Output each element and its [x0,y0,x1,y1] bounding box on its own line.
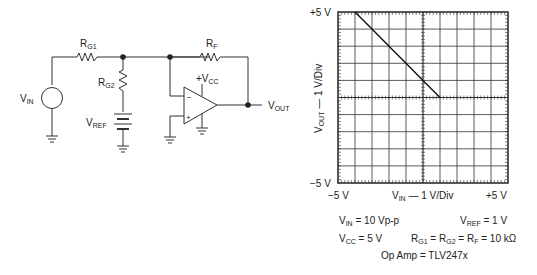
vcc-label: +VCC [196,73,219,85]
ground-icon [46,136,58,142]
vin-label: VIN [20,93,34,105]
inverting-input-sign: − [187,93,192,102]
y-min-label: −5 V [310,178,331,189]
rg2-label: RG2 [98,77,115,89]
rg1-resistor-icon [77,53,97,61]
vin-condition: VIN = 10 Vp-p [339,215,399,227]
opamp-condition: Op Amp = TLV247x [381,250,468,261]
junction-dots [120,54,251,108]
resistor-condition: RG1 = RG2 = RF = 10 kΩ [411,233,516,245]
rf-resistor-icon [200,53,220,61]
rf-label: RF [206,38,218,50]
ground-icon [196,128,208,134]
chart-frame [338,12,508,183]
vin-source-icon [42,88,63,109]
x-max-label: +5 V [486,190,507,201]
chart-grid [338,12,508,183]
y-axis-label: VOUT — 1 V/Div [313,64,325,133]
ground-icon [164,137,176,143]
vout-trace [355,12,440,98]
x-min-label: −5 V [328,190,349,201]
ground-icon [117,146,129,152]
rg1-label: RG1 [80,38,97,50]
circuit-schematic: RG1 RF RG2 VIN VREF +VCC VOUT − + [0,0,300,200]
rg2-resistor-icon [119,70,127,91]
vref-condition: VREF = 1 V [460,215,507,227]
vout-label: VOUT [268,100,290,112]
x-axis-label: VIN — 1 V/Div [392,190,453,202]
y-max-label: +5 V [310,7,331,18]
vcc-condition: VCC = 5 V [339,233,382,245]
vref-label: VREF [86,117,107,129]
noninverting-input-sign: + [186,113,191,122]
